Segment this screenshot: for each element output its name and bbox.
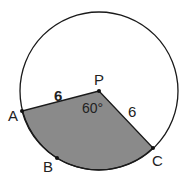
point-b <box>55 156 59 160</box>
label-p: P <box>94 71 104 88</box>
radius-label-pc: 6 <box>128 103 136 120</box>
label-b: B <box>43 158 53 175</box>
radius-label-pa: 6 <box>54 87 62 104</box>
label-a: A <box>8 107 18 124</box>
point-p <box>97 89 101 93</box>
circle-diagram: P A B C 6 6 60° <box>0 0 188 186</box>
angle-label: 60° <box>82 100 103 116</box>
point-c <box>151 146 155 150</box>
label-c: C <box>152 152 163 169</box>
point-a <box>20 109 24 113</box>
